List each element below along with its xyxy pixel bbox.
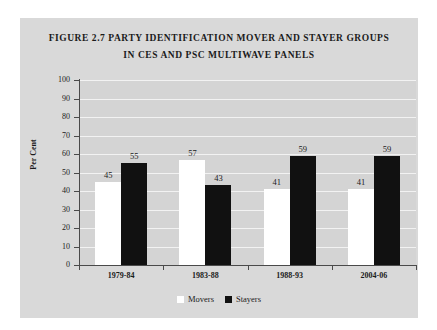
x-axis-category-label: 1979-84 (79, 271, 163, 280)
legend-label-stayers: Stayers (236, 294, 261, 304)
gridline (79, 99, 416, 100)
y-axis-line (79, 79, 80, 266)
y-axis-tick-label: 60 (42, 149, 70, 158)
x-axis-tick (416, 265, 417, 270)
y-axis-tick-label: 100 (42, 75, 70, 84)
bar-value-label: 43 (199, 173, 237, 183)
bar-movers-1979-84 (95, 182, 121, 265)
bar-movers-2004-06 (348, 189, 374, 265)
y-axis-tick (74, 228, 79, 229)
gridline (79, 117, 416, 118)
bar-value-label: 59 (284, 144, 322, 154)
chart-title-line-2: IN CES AND PSC MULTIWAVE PANELS (20, 47, 418, 64)
y-axis-tick-label: 80 (42, 112, 70, 121)
bar-value-label: 45 (89, 170, 127, 180)
gridline (79, 80, 416, 81)
bar-stayers-1983-88 (205, 185, 231, 265)
legend-item-movers[interactable]: Movers (177, 294, 214, 304)
y-axis-tick (74, 99, 79, 100)
x-axis-tick (332, 265, 333, 270)
y-axis-tick (74, 191, 79, 192)
y-axis-tick (74, 173, 79, 174)
y-axis-title: Per Cent (29, 125, 38, 185)
bar-value-label: 41 (342, 177, 380, 187)
x-axis-tick (79, 265, 80, 270)
legend-label-movers: Movers (188, 294, 214, 304)
x-axis-category-label: 1988-93 (248, 271, 332, 280)
chart-title-line-1: FIGURE 2.7 PARTY IDENTIFICATION MOVER AN… (49, 33, 390, 43)
movers-swatch-icon (177, 296, 184, 303)
x-axis-category-label: 2004-06 (332, 271, 416, 280)
bar-value-label: 59 (368, 144, 406, 154)
y-axis-tick (74, 154, 79, 155)
y-axis-tick (74, 136, 79, 137)
bar-stayers-1988-93 (290, 156, 316, 265)
stayers-swatch-icon (225, 296, 232, 303)
y-axis-tick-label: 10 (42, 242, 70, 251)
y-axis-tick-label: 40 (42, 186, 70, 195)
bar-movers-1988-93 (264, 189, 290, 265)
y-axis-tick-label: 0 (42, 260, 70, 269)
y-axis-tick-label: 30 (42, 205, 70, 214)
chart-title: FIGURE 2.7 PARTY IDENTIFICATION MOVER AN… (20, 30, 418, 64)
y-axis-tick-label: 90 (42, 94, 70, 103)
x-axis-category-label: 1983-88 (163, 271, 247, 280)
y-axis-tick (74, 210, 79, 211)
y-axis-tick-label: 20 (42, 223, 70, 232)
figure-panel: FIGURE 2.7 PARTY IDENTIFICATION MOVER AN… (20, 18, 418, 318)
legend-item-stayers[interactable]: Stayers (225, 294, 261, 304)
y-axis-tick-label: 50 (42, 168, 70, 177)
x-axis-tick (248, 265, 249, 270)
y-axis-tick-label: 70 (42, 131, 70, 140)
bar-value-label: 57 (173, 148, 211, 158)
y-axis-tick (74, 80, 79, 81)
y-axis-tick (74, 247, 79, 248)
y-axis-tick (74, 117, 79, 118)
bar-stayers-2004-06 (374, 156, 400, 265)
bar-value-label: 41 (258, 177, 296, 187)
plot-area (79, 80, 416, 265)
x-axis-tick (163, 265, 164, 270)
chart-legend: Movers Stayers (20, 294, 418, 304)
bar-value-label: 55 (115, 151, 153, 161)
gridline (79, 136, 416, 137)
